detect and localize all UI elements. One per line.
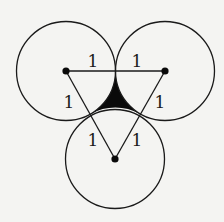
label-top-left: 1 [88,51,99,71]
label-right-upper: 1 [155,92,166,112]
tangent-circles-diagram: 1 1 1 1 1 1 [0,0,224,222]
center-dot-right [161,67,168,74]
label-top-right: 1 [132,51,143,71]
label-left-lower: 1 [88,130,99,150]
center-dot-left [62,67,69,74]
label-left-upper: 1 [64,92,75,112]
label-right-lower: 1 [132,130,143,150]
center-dot-bottom [111,155,118,162]
